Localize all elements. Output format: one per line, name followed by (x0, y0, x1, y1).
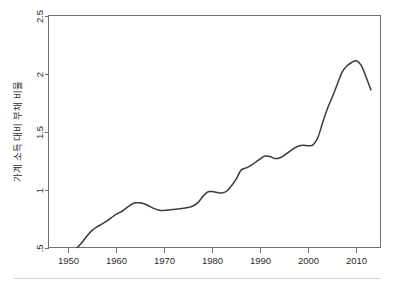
y-tick-label: 2.5 (34, 10, 45, 23)
x-tick-label: 2010 (346, 255, 367, 266)
y-tick-label: 1.5 (34, 126, 45, 139)
y-tick-label: 1 (34, 188, 45, 193)
chart-figure: .511.522.5 1950196019701980199020002010 … (0, 0, 394, 293)
x-axis-ticks (69, 248, 357, 253)
x-axis-tick-labels: 1950196019701980199020002010 (58, 255, 367, 266)
y-axis-title: 가계 소득 대비 부채 비율 (12, 81, 23, 182)
y-tick-label: 2 (34, 72, 45, 77)
chart-plot-area: .511.522.5 1950196019701980199020002010 … (0, 0, 394, 293)
plot-frame (49, 16, 381, 248)
y-axis-ticks (45, 17, 49, 249)
series-line (77, 61, 371, 248)
x-tick-label: 1960 (106, 255, 127, 266)
x-tick-label: 1950 (58, 255, 79, 266)
x-tick-label: 1980 (202, 255, 223, 266)
y-axis-tick-labels: .511.522.5 (34, 10, 45, 253)
x-tick-label: 1970 (154, 255, 175, 266)
footer-divider (14, 278, 380, 279)
y-tick-label: .5 (34, 245, 45, 253)
x-tick-label: 2000 (298, 255, 319, 266)
data-series-group (77, 61, 371, 248)
x-tick-label: 1990 (250, 255, 271, 266)
